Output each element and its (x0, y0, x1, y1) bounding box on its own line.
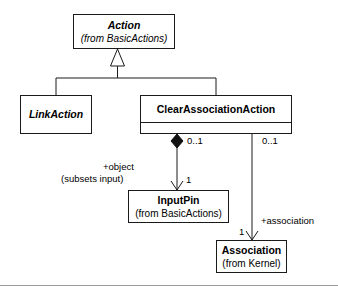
multiplicity-association-source: 0..1 (262, 135, 278, 147)
object-composition-connector (171, 134, 183, 190)
role-label-association: +association (261, 215, 314, 227)
class-name-action: Action (108, 19, 141, 32)
class-package-input-pin: (from BasicActions) (135, 207, 222, 220)
constraint-label-subsets-input: (subsets input) (61, 173, 123, 185)
class-package-association: (from Kernel) (222, 257, 280, 270)
generalization-connector (56, 49, 216, 95)
association-reference-connector (246, 134, 258, 240)
composition-diamond-icon (171, 134, 183, 148)
multiplicity-object-target: 1 (186, 174, 191, 186)
uml-class-diagram: Action (from BasicActions) LinkAction Cl… (0, 0, 338, 296)
generalization-triangle-icon (111, 49, 125, 66)
class-box-association[interactable]: Association (from Kernel) (216, 240, 287, 273)
multiplicity-object-source: 0..1 (187, 135, 203, 147)
class-name-link-action: LinkAction (29, 108, 83, 121)
class-box-input-pin[interactable]: InputPin (from BasicActions) (128, 190, 229, 223)
role-label-object: +object (103, 161, 134, 173)
class-package-action: (from BasicActions) (81, 32, 168, 45)
multiplicity-association-target: 1 (239, 226, 244, 238)
page-divider-rule (0, 285, 338, 286)
class-box-action[interactable]: Action (from BasicActions) (73, 14, 175, 49)
class-attributes-compartment (141, 123, 291, 133)
class-box-clear-association-action[interactable]: ClearAssociationAction (140, 95, 292, 134)
class-header-clear-association-action: ClearAssociationAction (141, 96, 291, 123)
class-name-clear-association-action: ClearAssociationAction (157, 103, 275, 116)
class-name-input-pin: InputPin (158, 194, 200, 207)
class-name-association: Association (222, 244, 282, 257)
class-box-link-action[interactable]: LinkAction (20, 95, 92, 134)
